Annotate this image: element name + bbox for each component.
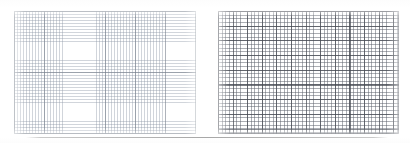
page-title: Graph paper grid comparison bbox=[0, 21, 1, 22]
page-root: Graph paper grid comparison Fine light g… bbox=[0, 0, 410, 143]
graph-grid-right: Coarse dark graph grid bbox=[218, 11, 399, 134]
graph-grid-left: Fine light graph grid bbox=[14, 11, 196, 134]
graph-grid-right-frame bbox=[218, 11, 399, 134]
graph-grid-left-label: Fine light graph grid bbox=[14, 11, 15, 12]
graph-grid-left-frame bbox=[14, 11, 196, 134]
bottom-divider-rule bbox=[26, 137, 388, 138]
graph-grid-right-label: Coarse dark graph grid bbox=[218, 11, 219, 12]
